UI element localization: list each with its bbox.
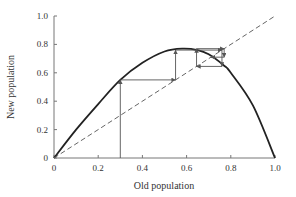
- x-tick-label: 0.2: [93, 163, 104, 173]
- y-tick-label: 0.6: [37, 68, 49, 78]
- x-tick-label: 0.6: [181, 163, 193, 173]
- plot-area: [54, 16, 275, 158]
- x-axis-title: Old population: [134, 180, 194, 191]
- x-tick-label: 0.8: [225, 163, 237, 173]
- y-tick-label: 1.0: [37, 11, 49, 21]
- y-tick-label: 0.8: [37, 39, 49, 49]
- x-tick-label: 0.4: [137, 163, 149, 173]
- cobweb-chart: 00.20.40.60.81.0 00.20.40.60.81.0 Old po…: [0, 0, 296, 197]
- y-axis-title: New population: [5, 55, 16, 119]
- population-curve: [54, 49, 275, 158]
- x-tick-label: 1.0: [269, 163, 281, 173]
- y-tick-label: 0.2: [37, 125, 48, 135]
- y-tick-label: 0.4: [37, 96, 49, 106]
- y-tick-label: 0: [44, 153, 49, 163]
- x-tick-label: 0: [52, 163, 57, 173]
